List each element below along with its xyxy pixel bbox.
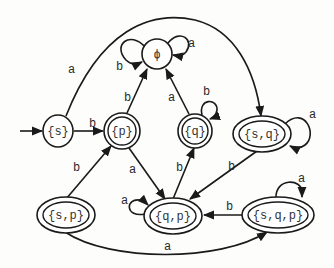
svg-text:a: a (188, 37, 195, 51)
svg-text:b: b (89, 117, 96, 131)
svg-text:a: a (164, 240, 171, 254)
svg-text:a: a (129, 163, 136, 177)
loop-qp-a: a (121, 194, 148, 215)
state-s: {s} (43, 115, 73, 147)
state-qp: {q,p} (144, 198, 202, 234)
edge-qp-q-b: b (173, 148, 194, 199)
edge-sp-sqp-a: a (65, 232, 267, 255)
state-sqp: {s,q,p} (242, 197, 314, 233)
svg-text:b: b (116, 60, 123, 74)
loop-q-b: b (201, 85, 217, 119)
edge-q-phi-a: a (166, 69, 189, 114)
svg-text:ϕ: ϕ (153, 48, 160, 62)
edge-p-phi-b: b (124, 69, 147, 113)
svg-text:a: a (168, 91, 175, 105)
loop-sqp-a: a (276, 172, 305, 198)
state-p[interactable]: {p} (104, 113, 140, 149)
svg-text:b: b (226, 200, 233, 214)
svg-text:{q}: {q} (184, 125, 206, 139)
state-phi: ϕ (142, 39, 172, 69)
svg-text:{s,q}: {s,q} (244, 128, 280, 142)
svg-text:b: b (124, 91, 131, 105)
svg-text:{s,q,p}: {s,q,p} (253, 209, 303, 223)
svg-text:a: a (309, 108, 316, 122)
edge-p-qp-a: a (129, 148, 165, 199)
edge-sq-qp-b: b (190, 151, 257, 199)
state-q: {q} (178, 114, 212, 148)
svg-text:{s,p}: {s,p} (48, 209, 84, 223)
edge-sp-p-b: b (66, 146, 111, 199)
svg-text:b: b (228, 160, 235, 174)
edge-s-p-b: b (74, 117, 103, 131)
svg-text:{q,p}: {q,p} (155, 210, 191, 224)
svg-text:{s}: {s} (47, 125, 69, 139)
svg-text:b: b (73, 161, 80, 175)
edge-sqp-qp-b: b (204, 200, 242, 215)
state-sq: {s,q} (233, 116, 291, 152)
svg-text:{p}: {p} (111, 125, 133, 139)
dfa-diagram: a b b a a b b a b b b a (0, 0, 334, 268)
svg-text:a: a (298, 172, 305, 186)
svg-text:a: a (121, 194, 128, 208)
loop-phi-b: b (116, 39, 145, 74)
svg-text:a: a (68, 63, 75, 77)
svg-text:b: b (203, 85, 210, 99)
svg-text:b: b (176, 161, 183, 175)
state-sp: {s,p} (37, 197, 95, 233)
